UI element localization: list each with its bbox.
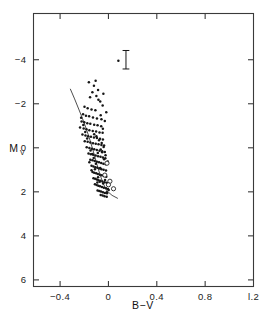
right-axis-ticks — [248, 60, 254, 280]
chart-canvas: −0.400.40.8l.2 −4−20246 B−V M V — [0, 0, 270, 315]
data-point-open — [106, 183, 110, 187]
plot-frame — [34, 14, 254, 287]
data-point — [95, 143, 98, 146]
data-point — [103, 195, 106, 198]
data-point — [102, 182, 105, 185]
y-tick-label: −4 — [15, 54, 27, 65]
data-point — [93, 160, 96, 163]
data-point — [94, 109, 97, 112]
error-bar-annotation — [117, 50, 129, 68]
data-point — [84, 134, 87, 137]
data-point — [93, 148, 96, 151]
data-point — [91, 159, 94, 162]
data-point — [86, 141, 89, 144]
data-point — [86, 107, 89, 110]
x-tick-label: −0.4 — [50, 291, 70, 302]
x-axis-tick-labels: −0.400.40.8l.2 — [50, 291, 259, 302]
color-magnitude-diagram-figure: −0.400.40.8l.2 −4−20246 B−V M V — [0, 0, 270, 315]
data-point — [90, 108, 93, 111]
data-point — [96, 149, 99, 152]
y-axis-tick-labels: −4−20246 — [15, 54, 27, 285]
data-point — [88, 161, 91, 164]
data-point — [106, 191, 109, 194]
data-point — [102, 128, 105, 131]
data-point — [99, 167, 102, 170]
data-point — [106, 195, 109, 198]
data-point — [89, 141, 92, 144]
data-point — [87, 135, 90, 138]
data-point — [91, 153, 94, 156]
data-point — [93, 84, 96, 87]
data-point — [84, 140, 87, 143]
data-point — [89, 123, 92, 126]
data-point — [90, 136, 93, 139]
data-point — [82, 127, 85, 130]
data-point — [100, 118, 103, 121]
data-point — [85, 128, 88, 131]
data-point — [90, 169, 93, 172]
data-point — [105, 169, 108, 172]
data-point — [92, 116, 95, 119]
data-point — [98, 131, 101, 134]
data-point — [81, 133, 84, 136]
data-point — [102, 138, 105, 141]
data-point — [99, 148, 102, 151]
data-point — [102, 169, 105, 172]
data-point — [101, 132, 104, 135]
data-point — [80, 117, 83, 120]
data-point — [97, 99, 100, 102]
data-point — [91, 91, 94, 94]
data-point-open — [111, 187, 115, 191]
data-point — [89, 149, 92, 152]
data-point — [95, 135, 98, 138]
data-point — [82, 113, 85, 116]
data-point — [103, 158, 106, 161]
data-point — [96, 181, 99, 184]
data-point — [93, 133, 96, 136]
x-tick-label: 0.8 — [198, 291, 212, 302]
data-point — [88, 129, 91, 132]
data-point — [98, 161, 101, 164]
data-point — [98, 139, 101, 142]
data-point — [89, 158, 92, 161]
data-point — [88, 147, 91, 150]
y-axis-label-main: M — [9, 142, 18, 154]
data-point — [97, 152, 100, 155]
data-point — [83, 106, 86, 109]
data-point — [94, 154, 97, 157]
y-tick-label: 2 — [21, 186, 27, 197]
data-point — [100, 125, 103, 128]
error-bar-companion-point — [117, 60, 120, 63]
y-axis-ticks — [34, 60, 40, 280]
data-point — [99, 114, 102, 117]
y-tick-label: −2 — [15, 98, 27, 109]
data-point — [94, 168, 97, 171]
data-point — [102, 146, 105, 149]
data-point — [95, 95, 98, 98]
x-axis-label: B−V — [132, 299, 154, 311]
data-point — [94, 80, 97, 83]
data-point — [104, 151, 107, 154]
data-point — [79, 126, 82, 129]
data-point — [104, 120, 107, 123]
data-point — [96, 124, 99, 127]
y-axis-label-subscript: V — [20, 149, 25, 156]
data-point — [103, 186, 106, 189]
cluster-member-points — [79, 80, 110, 198]
data-point — [99, 100, 102, 103]
data-point — [99, 156, 102, 159]
x-axis-ticks — [60, 281, 205, 287]
data-point — [87, 152, 90, 155]
data-point — [96, 117, 99, 120]
data-point — [93, 136, 96, 139]
data-point — [102, 162, 105, 165]
data-point — [89, 96, 92, 99]
plot-frame-rect — [34, 14, 254, 287]
data-point — [97, 143, 100, 146]
data-point — [83, 121, 86, 124]
data-point — [91, 130, 94, 133]
data-point — [97, 176, 100, 179]
data-point — [100, 162, 103, 165]
data-point — [93, 123, 96, 126]
x-tick-label: 0 — [106, 291, 112, 302]
